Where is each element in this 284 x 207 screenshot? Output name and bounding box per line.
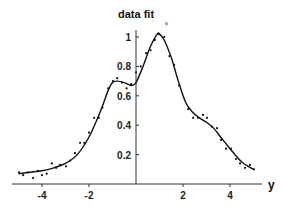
data-point xyxy=(149,49,151,51)
data-point xyxy=(145,52,147,54)
data-point xyxy=(206,117,208,119)
data-point xyxy=(126,87,128,89)
data-point xyxy=(216,127,218,129)
data-point xyxy=(178,84,180,86)
data-point xyxy=(93,117,95,119)
x-tick-label: 4 xyxy=(227,190,233,201)
data-point xyxy=(239,162,241,164)
data-point xyxy=(22,174,24,176)
data-point xyxy=(187,108,189,110)
y-tick-label: 0.6 xyxy=(117,91,131,102)
data-point xyxy=(202,114,204,116)
data-point xyxy=(107,87,109,89)
y-tick-label: 0.8 xyxy=(117,61,131,72)
data-point xyxy=(65,165,67,167)
data-point xyxy=(244,167,246,169)
data-point xyxy=(230,148,232,150)
data-point xyxy=(98,117,100,119)
x-tick-label: -4 xyxy=(38,190,47,201)
data-point xyxy=(140,65,142,67)
data-point xyxy=(46,173,48,175)
x-axis-label: y xyxy=(268,178,275,192)
data-point xyxy=(220,139,222,141)
data-point xyxy=(158,33,160,35)
data-point xyxy=(163,36,165,38)
data-point xyxy=(18,171,20,173)
data-point xyxy=(79,142,81,144)
x-tick-label: 2 xyxy=(180,190,186,201)
data-point xyxy=(74,152,76,154)
data-point xyxy=(51,162,53,164)
data-point xyxy=(173,64,175,66)
data-point xyxy=(121,81,123,83)
marker-dot xyxy=(165,22,169,26)
data-point xyxy=(112,80,114,82)
chart-plot: -4-2240.20.40.60.81y xyxy=(0,0,284,207)
data-point xyxy=(211,126,213,128)
data-point xyxy=(27,171,29,173)
data-point xyxy=(154,39,156,41)
axes: -4-2240.20.40.60.81y xyxy=(12,30,275,201)
data-point xyxy=(37,170,39,172)
data-point xyxy=(55,167,57,169)
data-point xyxy=(41,174,43,176)
annotation-marker xyxy=(165,22,169,26)
y-tick-label: 0.2 xyxy=(117,150,131,161)
data-point xyxy=(197,117,199,119)
data-point xyxy=(135,71,137,73)
data-point xyxy=(253,168,255,170)
y-tick-label: 1 xyxy=(125,32,131,43)
data-point xyxy=(88,131,90,133)
data-point xyxy=(69,159,71,161)
data-point xyxy=(59,164,61,166)
data-point xyxy=(130,83,132,85)
data-point xyxy=(192,117,194,119)
data-point xyxy=(168,55,170,57)
data-point xyxy=(101,106,103,108)
data-point xyxy=(32,177,34,179)
data-point xyxy=(225,148,227,150)
data-point xyxy=(235,158,237,160)
x-tick-label: -2 xyxy=(85,190,94,201)
data-point xyxy=(83,142,85,144)
data-point xyxy=(116,77,118,79)
y-tick-label: 0.4 xyxy=(117,120,131,131)
data-point xyxy=(249,164,251,166)
